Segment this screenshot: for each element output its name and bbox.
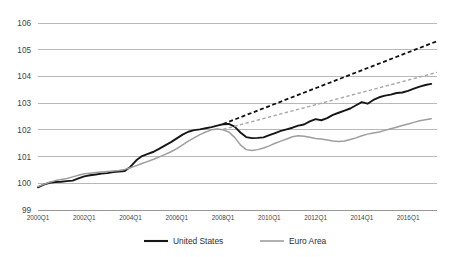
gridlines-group — [38, 23, 437, 210]
x-tick-label: 2000Q1 — [27, 214, 50, 222]
x-tick-label: 2014Q1 — [350, 214, 373, 222]
chart-legend: United StatesEuro Area — [144, 236, 327, 246]
line-chart: 99100101102103104105106 2000Q12002Q12004… — [0, 0, 452, 257]
y-tick-label: 105 — [17, 46, 31, 55]
x-tick-label: 2010Q1 — [258, 214, 281, 222]
y-tick-label: 103 — [17, 99, 31, 108]
x-tick-label: 2002Q1 — [73, 214, 96, 222]
legend-label-united-states: United States — [173, 236, 223, 246]
y-tick-label: 106 — [17, 19, 31, 28]
series-line-united-states-trend — [223, 41, 437, 124]
x-tick-label: 2004Q1 — [119, 214, 142, 222]
y-axis-tick-labels: 99100101102103104105106 — [17, 19, 31, 215]
y-tick-label: 101 — [17, 153, 31, 162]
x-axis-tick-labels: 2000Q12002Q12004Q12006Q12008Q12010Q12012… — [27, 214, 420, 222]
y-tick-label: 100 — [17, 179, 31, 188]
series-line-euro-area-trend — [223, 72, 437, 129]
x-tick-label: 2016Q1 — [397, 214, 420, 222]
x-tick-label: 2008Q1 — [212, 214, 235, 222]
x-tick-label: 2012Q1 — [304, 214, 327, 222]
x-tick-label: 2006Q1 — [165, 214, 188, 222]
chart-container: 99100101102103104105106 2000Q12002Q12004… — [0, 0, 452, 257]
y-tick-label: 102 — [17, 126, 31, 135]
data-series-group — [38, 41, 437, 187]
legend-label-euro-area: Euro Area — [289, 236, 327, 246]
series-line-euro-area — [38, 119, 431, 187]
y-tick-label: 104 — [17, 72, 31, 81]
